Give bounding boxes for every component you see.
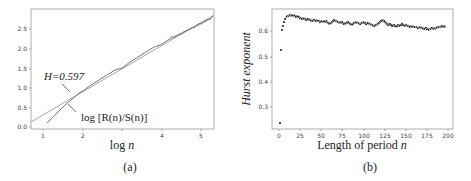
panel-b-xtick-label: 25: [296, 132, 304, 139]
panel-b-xtick-label: 200: [442, 132, 454, 139]
panel-a-hurst-pointer: [62, 84, 70, 92]
panel-b-ytick-label: 0.4: [258, 78, 268, 85]
panel-b-scatter-points: [279, 18, 286, 124]
panel-a-ytick-label: 2.5: [17, 25, 27, 32]
panel-b-caption: (b): [363, 160, 377, 174]
panel-a-hurst-annotation: H=0.597: [43, 70, 85, 82]
panel-a: 2.5 2.0 1.5 1.0 0.5 0.0 1 2 4 5 H=0.597 …: [17, 9, 214, 174]
panel-b-ytick-label: 0.5: [258, 53, 268, 60]
panel-a-rs-annotation: log [R(n)/S(n)]: [81, 111, 147, 124]
panel-a-ytick-label: 0.0: [17, 123, 27, 130]
panel-a-ytick-label: 0.5: [17, 104, 27, 111]
panel-b-scatter-band: [286, 15, 446, 30]
panel-b-ytick-label: 0.3: [258, 103, 268, 110]
panel-b-x-axis-label: Length of period n: [317, 138, 407, 152]
panel-a-xtick-label: 1: [41, 132, 45, 139]
panel-b-xtick-label: 0: [277, 132, 281, 139]
panel-a-x-axis-label: log n: [110, 138, 134, 152]
panel-b-ytick-label: 0.6: [258, 27, 268, 34]
panel-b: 0.6 0.5 0.4 0.3 0 25 50 75 100 125 150 1…: [239, 9, 454, 174]
panel-b-y-axis-label: Hurst exponent: [239, 32, 253, 107]
figure: 2.5 2.0 1.5 1.0 0.5 0.0 1 2 4 5 H=0.597 …: [0, 0, 471, 181]
panel-a-rs-pointer: [68, 104, 76, 112]
panel-a-xtick-label: 4: [160, 132, 164, 139]
panel-a-xtick-label: 2: [81, 132, 85, 139]
panel-b-xtick-label: 175: [421, 132, 433, 139]
panel-a-ytick-label: 1.5: [17, 65, 27, 72]
panel-a-ytick-label: 2.0: [17, 45, 27, 52]
panel-a-ytick-label: 1.0: [17, 84, 27, 91]
panel-a-caption: (a): [123, 160, 136, 174]
panel-a-xtick-label: 5: [199, 132, 203, 139]
